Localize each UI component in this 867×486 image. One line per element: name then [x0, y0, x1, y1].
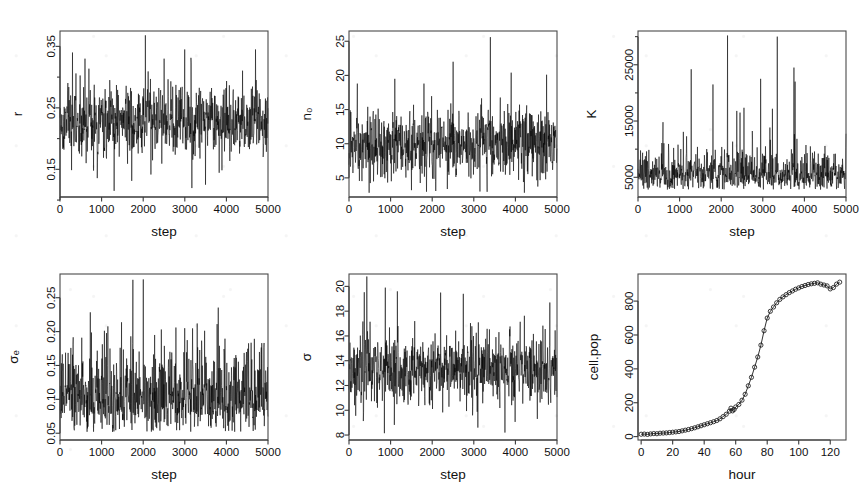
panel-n0-svg: 510152025 010002000300040005000 n₀ step	[289, 0, 578, 243]
y-axis: 0.150.250.35	[45, 35, 60, 200]
x-tick-label: 80	[761, 446, 774, 458]
y-axis: 0.050.100.150.200.25	[45, 287, 60, 445]
y-tick-label: 0.05	[45, 422, 57, 444]
y-tick-label: 600	[623, 325, 635, 344]
y-tick-label: 0.35	[45, 35, 57, 57]
y-tick-label: 15	[334, 103, 346, 116]
y-tick-label: 20	[334, 280, 346, 293]
x-tick-label: 1000	[378, 446, 404, 458]
y-tick-label: 0.15	[45, 354, 57, 376]
x-tick-label: 2000	[130, 203, 156, 215]
y-tick-label: 25000	[623, 49, 635, 81]
y-axis: 0200400600800	[623, 292, 638, 440]
x-axis-label: hour	[728, 467, 756, 482]
panel-n0: 510152025 010002000300040005000 n₀ step	[289, 0, 578, 243]
y-axis: 50001500025000	[623, 37, 638, 190]
x-tick-label: 3000	[750, 203, 776, 215]
x-tick-label: 4000	[503, 446, 529, 458]
x-tick-label: 1000	[667, 203, 693, 215]
panel-cellpop-svg: 0200400600800 020406080100120 cell.pop h…	[578, 243, 867, 486]
y-tick-label: 0.15	[45, 158, 57, 180]
y-tick-label: 14	[334, 354, 346, 367]
x-tick-label: 4000	[792, 203, 818, 215]
x-axis-label: step	[151, 467, 177, 482]
x-tick-label: 3000	[461, 203, 487, 215]
panel-r-svg: 0.150.250.35 010002000300040005000 r ste…	[0, 0, 289, 243]
x-axis: 010002000300040005000	[57, 440, 281, 458]
y-tick-label: 15000	[623, 105, 635, 137]
x-tick-label: 0	[635, 203, 641, 215]
y-tick-label: 400	[623, 359, 635, 378]
x-tick-label: 4000	[503, 203, 529, 215]
y-tick-label: 10	[334, 137, 346, 150]
y-axis: 8101214161820	[334, 280, 349, 438]
x-tick-label: 5000	[544, 203, 570, 215]
y-tick-label: 5000	[623, 165, 635, 191]
y-tick-label: 0	[623, 433, 635, 439]
x-tick-label: 60	[729, 446, 742, 458]
x-tick-label: 4000	[214, 203, 240, 215]
y-tick-label: 25	[334, 35, 346, 48]
y-tick-label: 12	[334, 379, 346, 392]
x-tick-label: 2000	[419, 446, 445, 458]
y-axis-label: σ	[299, 352, 314, 361]
x-axis-label: step	[729, 224, 755, 239]
panel-sigma-plot-area	[349, 276, 557, 433]
trace-line-r	[60, 35, 268, 191]
x-tick-label: 0	[57, 446, 63, 458]
x-tick-label: 1000	[89, 446, 115, 458]
x-tick-label: 1000	[89, 203, 115, 215]
y-axis-label: n₀	[299, 107, 314, 120]
trace-line-sigma-b	[60, 279, 268, 431]
x-tick-label: 3000	[172, 203, 198, 215]
figure-panel-grid: 0.150.250.35 010002000300040005000 r ste…	[0, 0, 867, 486]
plot-box	[638, 274, 846, 440]
y-tick-label: 10	[334, 404, 346, 417]
y-tick-label: 16	[334, 330, 346, 343]
y-axis-label: r	[10, 111, 25, 116]
y-axis-label: cell.pop	[586, 334, 601, 381]
panel-r: 0.150.250.35 010002000300040005000 r ste…	[0, 0, 289, 243]
x-tick-label: 40	[698, 446, 711, 458]
y-axis-label: K	[584, 109, 599, 118]
x-axis: 010002000300040005000	[346, 440, 570, 458]
growth-curve-markers	[639, 280, 842, 436]
x-axis: 010002000300040005000	[635, 197, 859, 215]
panel-cellpop: 0200400600800 020406080100120 cell.pop h…	[578, 243, 867, 486]
x-tick-label: 100	[789, 446, 808, 458]
panel-sigma-b-plot-area	[60, 279, 268, 431]
panel-r-plot-area	[60, 35, 268, 191]
y-tick-label: 0.25	[45, 287, 57, 309]
panel-n0-plot-area	[349, 37, 557, 193]
y-tick-label: 5	[334, 175, 346, 181]
y-axis-label: σₑ	[6, 350, 21, 363]
panel-sigma: 8101214161820 010002000300040005000 σ st…	[289, 243, 578, 486]
x-tick-label: 0	[346, 203, 352, 215]
y-tick-label: 18	[334, 305, 346, 318]
x-axis: 010002000300040005000	[57, 197, 281, 215]
y-axis: 510152025	[334, 35, 349, 181]
trace-line-sigma	[349, 276, 557, 433]
x-tick-label: 2000	[708, 203, 734, 215]
panel-cellpop-plot-area	[639, 280, 842, 436]
panel-sigma-b: 0.050.100.150.200.25 0100020003000400050…	[0, 243, 289, 486]
panel-K-plot-area	[638, 36, 846, 190]
y-tick-label: 8	[334, 432, 346, 438]
x-tick-label: 0	[638, 446, 644, 458]
panel-sigma-b-svg: 0.050.100.150.200.25 0100020003000400050…	[0, 243, 289, 486]
x-tick-label: 5000	[833, 203, 859, 215]
y-tick-label: 0.10	[45, 388, 57, 410]
x-tick-label: 0	[57, 203, 63, 215]
x-tick-label: 3000	[461, 446, 487, 458]
x-tick-label: 5000	[544, 446, 570, 458]
x-tick-label: 5000	[255, 446, 281, 458]
growth-curve-line	[641, 282, 840, 434]
x-tick-label: 20	[666, 446, 679, 458]
x-axis-label: step	[440, 224, 466, 239]
x-tick-label: 0	[346, 446, 352, 458]
x-tick-label: 3000	[172, 446, 198, 458]
y-tick-label: 800	[623, 292, 635, 311]
x-tick-label: 2000	[419, 203, 445, 215]
x-tick-label: 4000	[214, 446, 240, 458]
y-tick-label: 20	[334, 69, 346, 82]
